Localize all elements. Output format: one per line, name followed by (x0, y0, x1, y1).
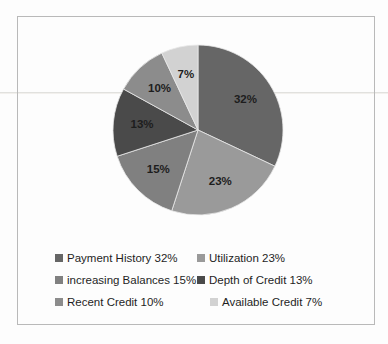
legend-item-available-credit[interactable]: Available Credit 7% (197, 291, 322, 313)
legend-item-label: Available Credit 7% (222, 296, 322, 309)
pie-chart: 32%23%15%13%10%7% (112, 44, 284, 216)
pie-slice-value-label: 13% (131, 118, 154, 130)
chart-legend: Payment History 32% Utilization 23% incr… (55, 247, 355, 313)
legend-item-depth-of-credit[interactable]: Depth of Credit 13% (197, 269, 313, 291)
legend-item-payment-history[interactable]: Payment History 32% (55, 247, 197, 269)
pie-slice-value-label: 7% (177, 68, 194, 80)
pie-slice-group (113, 45, 283, 215)
legend-swatch-icon (55, 254, 63, 262)
legend-row: increasing Balances 15% Depth of Credit … (55, 269, 355, 291)
legend-item-label: Recent Credit 10% (67, 296, 164, 309)
legend-item-utilization[interactable]: Utilization 23% (197, 247, 285, 269)
pie-slice-value-label: 10% (148, 82, 171, 94)
legend-swatch-icon (197, 276, 205, 284)
legend-item-label: Depth of Credit 13% (209, 274, 313, 287)
legend-swatch-icon (197, 254, 205, 262)
legend-item-label: Utilization 23% (209, 252, 285, 265)
legend-item-label: increasing Balances 15% (67, 274, 196, 287)
pie-slice-value-label: 32% (234, 93, 257, 105)
legend-row: Recent Credit 10% Available Credit 7% (55, 291, 355, 313)
pie-slice-value-label: 23% (209, 175, 232, 187)
legend-item-increasing-balances[interactable]: increasing Balances 15% (55, 269, 197, 291)
legend-row: Payment History 32% Utilization 23% (55, 247, 355, 269)
pie-slice-value-label: 15% (147, 163, 170, 175)
legend-item-recent-credit[interactable]: Recent Credit 10% (55, 291, 197, 313)
legend-item-label: Payment History 32% (67, 252, 178, 265)
legend-swatch-icon (55, 276, 63, 284)
pie-chart-svg: 32%23%15%13%10%7% (112, 44, 284, 216)
legend-swatch-icon (210, 298, 218, 306)
legend-swatch-icon (55, 298, 63, 306)
